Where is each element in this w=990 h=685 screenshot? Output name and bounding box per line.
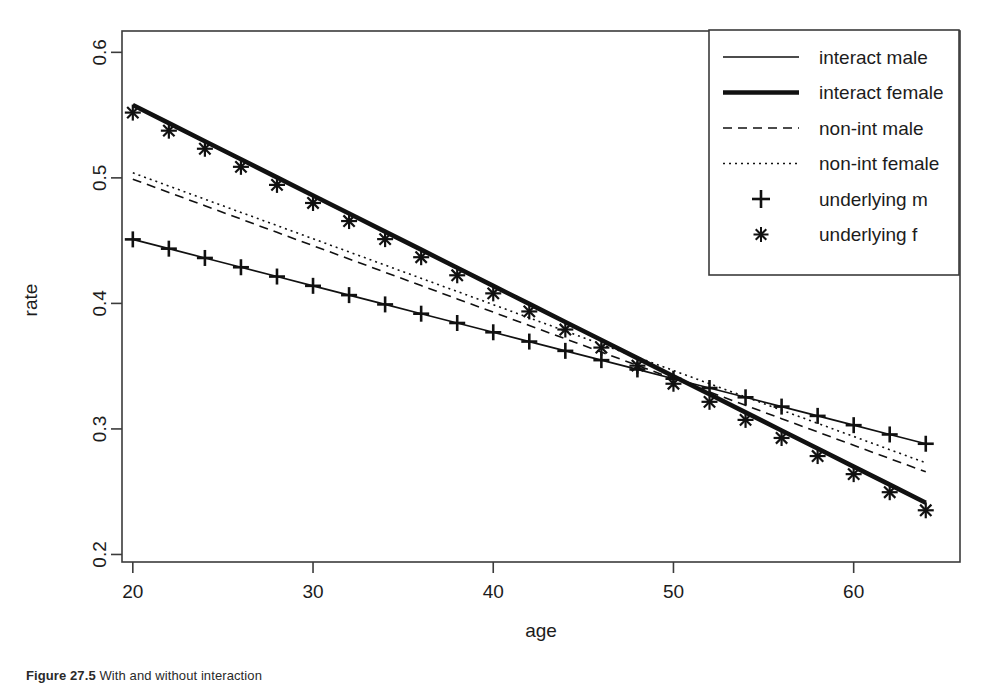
star-marker — [341, 213, 357, 229]
star-marker — [918, 502, 934, 518]
star-marker — [846, 466, 862, 482]
plus-marker — [269, 269, 285, 285]
star-marker — [161, 123, 177, 139]
x-axis-ticks — [133, 562, 854, 573]
star-marker — [197, 141, 213, 157]
y-axis-title: rate — [20, 284, 41, 317]
plus-marker — [918, 436, 934, 452]
star-marker — [305, 195, 321, 211]
star-marker — [702, 394, 718, 410]
plus-marker — [810, 408, 826, 424]
star-marker — [774, 430, 790, 446]
caption-body: With and without interaction — [99, 668, 262, 683]
star-marker — [810, 448, 826, 464]
plus-marker — [197, 250, 213, 266]
star-marker — [377, 231, 393, 247]
legend-label: underlying m — [819, 189, 928, 210]
star-marker — [557, 322, 573, 338]
figure-container: 2030405060 0.20.30.40.50.6 age rate inte… — [0, 0, 990, 685]
plus-marker — [341, 287, 357, 303]
y-tick-label: 0.2 — [89, 541, 110, 567]
star-marker — [125, 105, 141, 121]
chart-canvas: 2030405060 0.20.30.40.50.6 age rate inte… — [0, 0, 990, 685]
y-tick-label: 0.6 — [89, 39, 110, 65]
star-marker — [754, 227, 769, 242]
plus-marker — [557, 343, 573, 359]
star-marker — [413, 249, 429, 265]
star-marker — [521, 303, 537, 319]
plus-marker — [413, 306, 429, 322]
legend-label: underlying f — [819, 224, 918, 245]
x-tick-label: 50 — [663, 581, 684, 602]
plus-marker — [449, 315, 465, 331]
y-tick-label: 0.4 — [89, 290, 110, 317]
star-marker — [233, 159, 249, 175]
plus-marker — [125, 231, 141, 247]
plus-marker — [233, 259, 249, 275]
chart-legend: interact maleinteract femalenon-int male… — [709, 30, 959, 275]
plus-marker — [161, 241, 177, 257]
legend-label: interact male — [819, 47, 928, 68]
star-marker — [269, 177, 285, 193]
plus-marker — [846, 417, 862, 433]
y-axis-ticks — [111, 52, 122, 554]
star-marker — [882, 484, 898, 500]
plus-marker — [377, 296, 393, 312]
y-tick-label: 0.5 — [89, 165, 110, 191]
y-tick-label: 0.3 — [89, 416, 110, 442]
star-marker — [449, 267, 465, 283]
plus-marker — [882, 426, 898, 442]
legend-label: interact female — [819, 82, 944, 103]
y-axis-tick-labels: 0.20.30.40.50.6 — [89, 39, 110, 568]
legend-label: non-int female — [819, 153, 939, 174]
x-axis-tick-labels: 2030405060 — [122, 581, 864, 602]
star-marker — [593, 340, 609, 356]
x-axis-title: age — [525, 620, 557, 641]
figure-caption: Figure 27.5 With and without interaction — [26, 668, 262, 683]
star-marker — [629, 358, 645, 374]
x-tick-label: 40 — [483, 581, 504, 602]
plus-marker — [521, 334, 537, 350]
x-tick-label: 20 — [122, 581, 143, 602]
star-marker — [738, 412, 754, 428]
plus-marker — [305, 278, 321, 294]
x-tick-label: 60 — [843, 581, 864, 602]
star-marker — [665, 376, 681, 392]
legend-label: non-int male — [819, 118, 924, 139]
caption-number: Figure 27.5 — [26, 668, 96, 683]
plus-marker — [485, 324, 501, 340]
x-tick-label: 30 — [302, 581, 323, 602]
star-marker — [485, 285, 501, 301]
